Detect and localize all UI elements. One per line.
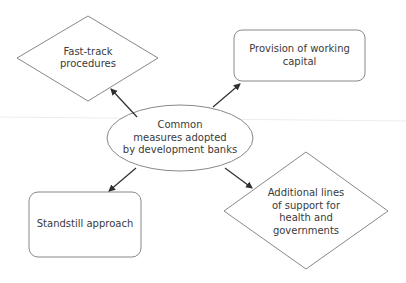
standstill-box bbox=[29, 192, 141, 257]
arrow-to-working-capital bbox=[213, 84, 240, 107]
arrow-to-additional-lines bbox=[225, 168, 252, 188]
center-ellipse bbox=[107, 105, 253, 171]
arrow-to-fast-track bbox=[111, 89, 137, 117]
arrow-to-standstill bbox=[109, 168, 136, 191]
diagram-canvas bbox=[0, 0, 406, 283]
working-capital-box bbox=[234, 30, 365, 81]
fast-track-diamond bbox=[17, 16, 158, 101]
additional-lines-diamond bbox=[224, 152, 388, 269]
